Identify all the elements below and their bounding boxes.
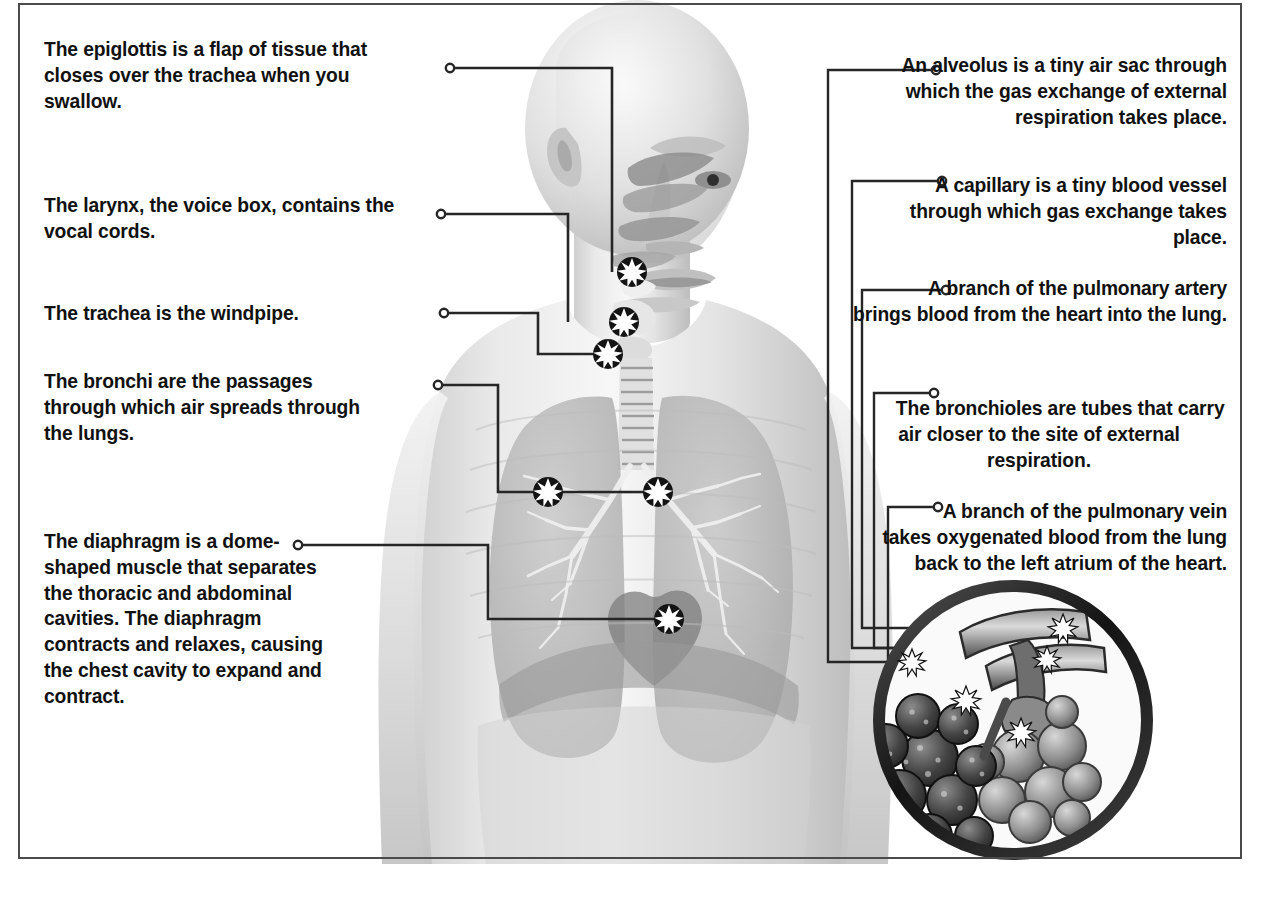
- label-trachea-before: The: [44, 301, 83, 324]
- endpoint-larynx: [437, 210, 445, 218]
- label-trachea: The trachea is the windpipe.: [44, 300, 420, 326]
- label-pulmonary-vein-before: A branch of the: [900, 499, 1087, 522]
- label-capillary: A capillary is a tiny blood vessel throu…: [851, 172, 1227, 249]
- label-diaphragm-after: is a dome-shaped muscle that separates t…: [44, 529, 323, 707]
- label-capillary-term: capillary: [953, 173, 1030, 196]
- label-larynx-before: The: [44, 193, 83, 216]
- label-trachea-after: is the windpipe.: [150, 301, 298, 324]
- label-diaphragm-term: diaphragm: [83, 529, 180, 552]
- label-capillary-before: A: [893, 173, 954, 196]
- endpoint-trachea: [440, 309, 448, 317]
- label-bronchioles: The bronchioles are tubes that carry air…: [851, 395, 1227, 472]
- label-larynx-term: larynx: [83, 193, 139, 216]
- label-alveolus-before: An: [859, 53, 932, 76]
- endpoint-bronchi: [434, 381, 442, 389]
- label-bronchioles-term: bronchioles: [935, 396, 1042, 419]
- label-epiglottis-before: The: [44, 37, 83, 60]
- label-pulmonary-vein: A branch of the pulmonary vein takes oxy…: [851, 498, 1227, 575]
- endpoint-epiglottis: [446, 64, 454, 72]
- marker-diaphragm: [654, 604, 684, 634]
- label-pulmonary-artery: A branch of the pulmonary artery brings …: [851, 275, 1227, 327]
- diagram-page: The epiglottis is a flap of tissue that …: [0, 0, 1277, 904]
- marker-bronchi-right: [533, 477, 563, 507]
- label-epiglottis: The epiglottis is a flap of tissue that …: [44, 36, 420, 113]
- label-trachea-term: trachea: [83, 301, 150, 324]
- label-larynx: The larynx, the voice box, contains the …: [44, 192, 420, 244]
- trachea-tube: [618, 358, 654, 470]
- label-bronchi-term: bronchi: [83, 369, 152, 392]
- label-diaphragm-before: The: [44, 529, 83, 552]
- marker-epiglottis: [617, 257, 647, 287]
- pupil: [707, 174, 719, 186]
- label-pulmonary-artery-term: pulmonary artery: [1073, 276, 1227, 299]
- label-epiglottis-term: epiglottis: [83, 37, 167, 60]
- label-alveolus: An alveolus is a tiny air sac through wh…: [851, 52, 1227, 129]
- marker-trachea: [593, 339, 623, 369]
- label-pulmonary-artery-before: A branch of the: [886, 276, 1073, 299]
- label-pulmonary-artery-after: brings blood from the heart into the lun…: [853, 302, 1227, 325]
- label-alveolus-term: alveolus: [932, 53, 1008, 76]
- label-bronchi-before: The: [44, 369, 83, 392]
- marker-bronchi-left: [643, 477, 673, 507]
- abdomen: [478, 707, 811, 865]
- label-diaphragm: The diaphragm is a dome-shaped muscle th…: [44, 528, 326, 709]
- marker-larynx: [609, 307, 639, 337]
- label-pulmonary-vein-term: pulmonary vein: [1087, 499, 1227, 522]
- label-bronchioles-before: The: [853, 396, 935, 419]
- label-pulmonary-vein-after: takes oxygenated blood from the lung bac…: [882, 525, 1227, 574]
- body-figure: [379, 0, 893, 864]
- label-bronchi: The bronchi are the passages through whi…: [44, 368, 364, 445]
